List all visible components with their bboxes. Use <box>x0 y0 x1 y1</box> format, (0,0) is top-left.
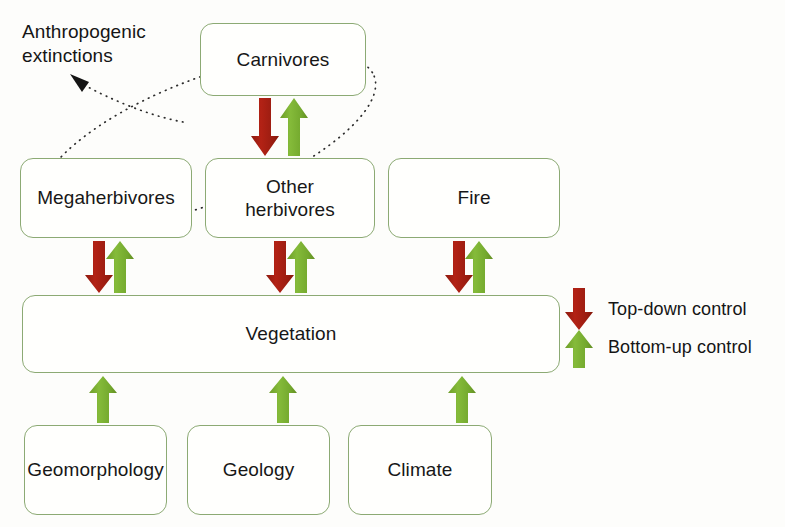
node-vegetation-label: Vegetation <box>246 322 337 345</box>
arrow-megaherbivores-to-vegetation <box>85 241 113 293</box>
arrow-climate-to-vegetation <box>448 376 476 423</box>
trophic-control-diagram: Carnivores Megaherbivores Other herbivor… <box>0 0 785 527</box>
arrow-geomorphology-to-vegetation <box>89 376 117 423</box>
legend-bottom-up-arrow-icon <box>565 330 593 368</box>
node-megaherbivores[interactable]: Megaherbivores <box>20 158 192 238</box>
node-carnivores-label: Carnivores <box>237 48 330 71</box>
legend-bottom-up-label: Bottom-up control <box>608 337 752 358</box>
node-other-herbivores-label: Other herbivores <box>245 175 335 221</box>
node-geology-label: Geology <box>223 458 294 481</box>
node-geology[interactable]: Geology <box>187 425 330 515</box>
legend-top-down-label: Top-down control <box>608 299 747 320</box>
node-climate-label: Climate <box>387 458 452 481</box>
arrow-vegetation-to-megaherbivores <box>106 241 134 293</box>
node-megaherbivores-label: Megaherbivores <box>37 186 175 209</box>
node-climate[interactable]: Climate <box>348 425 492 515</box>
node-geomorphology-label: Geomorphology <box>27 458 164 481</box>
node-geomorphology[interactable]: Geomorphology <box>24 425 167 515</box>
arrow-geology-to-vegetation <box>269 376 297 423</box>
anthropogenic-extinctions-label: Anthropogenic extinctions <box>22 20 197 67</box>
anthropogenic-extinctions-arrowhead <box>70 74 89 92</box>
arrow-other-herbivores-to-carnivores <box>280 98 308 156</box>
legend-top-down-arrow-icon <box>565 288 593 330</box>
arrow-other-herbivores-to-vegetation <box>266 241 294 293</box>
node-fire-label: Fire <box>457 186 490 209</box>
node-other-herbivores[interactable]: Other herbivores <box>205 158 375 238</box>
arrow-vegetation-to-other-herbivores <box>287 241 315 293</box>
node-fire[interactable]: Fire <box>388 158 560 238</box>
node-carnivores[interactable]: Carnivores <box>200 23 366 96</box>
arrow-vegetation-to-fire <box>465 241 493 293</box>
arrow-fire-to-vegetation <box>445 241 473 293</box>
arrow-carnivores-to-other-herbivores <box>251 98 279 156</box>
anthropogenic-extinctions-leader <box>86 86 183 122</box>
node-vegetation[interactable]: Vegetation <box>22 295 560 373</box>
